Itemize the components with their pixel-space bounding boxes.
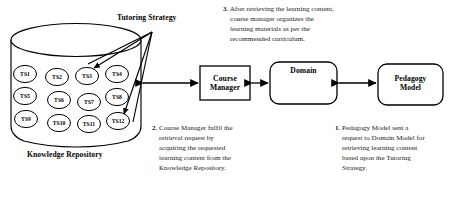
diagram-canvas: TS1 TS2 TS3 TS4 TS5 TS6 TS7 TS8 TS9 TS10… [0,0,450,209]
ts-label: TS8 [112,94,122,100]
annotation-note-1-text: . Pedagogy Model sent a request to Domai… [339,124,425,172]
tutoring-strategy-label: Tutoring Strategy [117,13,176,22]
domain-label: Domain [270,66,337,75]
course-manager-label: Course Manager [200,74,250,93]
ts-label: TS11 [83,121,95,127]
ts-label: TS4 [112,71,122,77]
ts-label: TS9 [21,116,31,122]
ts-label: TS6 [54,97,64,103]
domain-label-line1: Domain [270,66,337,75]
ts-label: TS12 [112,118,125,124]
annotation-note-3-text: . After retrieving the learning content,… [227,5,334,43]
ts-label: TS5 [20,93,30,99]
ts-label: TS1 [20,71,30,77]
ts-label: TS2 [52,74,62,80]
pedagogy-model-label-line2: Model [378,83,443,92]
annotation-note-2-text: . Course Manager fulfil the retrieval re… [156,124,233,172]
pedagogy-model-label-line1: Pedagogy [378,74,443,83]
annotation-note-1: 1. Pedagogy Model sent a request to Doma… [335,123,428,173]
course-manager-label-line2: Manager [200,83,250,92]
annotation-note-2: 2. Course Manager fulfil the retrieval r… [152,123,237,173]
ts-label: TS3 [82,73,92,79]
ts-label: TS7 [84,99,94,105]
pedagogy-model-label: Pedagogy Model [378,74,443,93]
knowledge-repository-label: Knowledge Repository [27,150,103,159]
ts-label: TS10 [53,120,66,126]
annotation-note-3: 3. After retrieving the learning content… [223,4,334,44]
course-manager-label-line1: Course [200,74,250,83]
